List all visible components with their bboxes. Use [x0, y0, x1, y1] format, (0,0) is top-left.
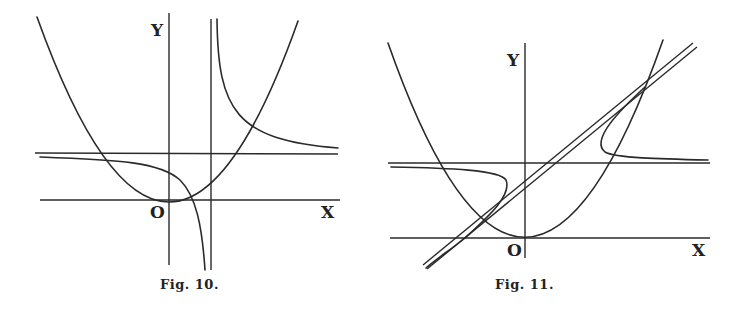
fig10-horizontal-asymptote [35, 153, 338, 154]
diagram-canvas: Y O X Fig. 10. Y O X Fig. 11. [0, 0, 747, 311]
figure-11: Y O X Fig. 11. [388, 40, 710, 292]
fig10-x-label: X [321, 202, 335, 222]
fig10-hyperbola-lower-branch [40, 157, 205, 270]
fig11-oblique-line-a [423, 43, 693, 265]
fig10-caption: Fig. 10. [160, 277, 219, 292]
fig10-origin-label: O [150, 202, 165, 222]
figure-10: Y O X Fig. 10. [35, 13, 340, 292]
fig10-hyperbola-upper-branch [217, 19, 338, 148]
fig11-x-label: X [692, 240, 706, 260]
fig11-origin-label: O [507, 240, 522, 260]
fig11-y-label: Y [506, 50, 520, 70]
fig10-parabola [37, 17, 298, 202]
fig11-caption: Fig. 11. [495, 277, 554, 292]
fig10-y-label: Y [150, 20, 164, 40]
